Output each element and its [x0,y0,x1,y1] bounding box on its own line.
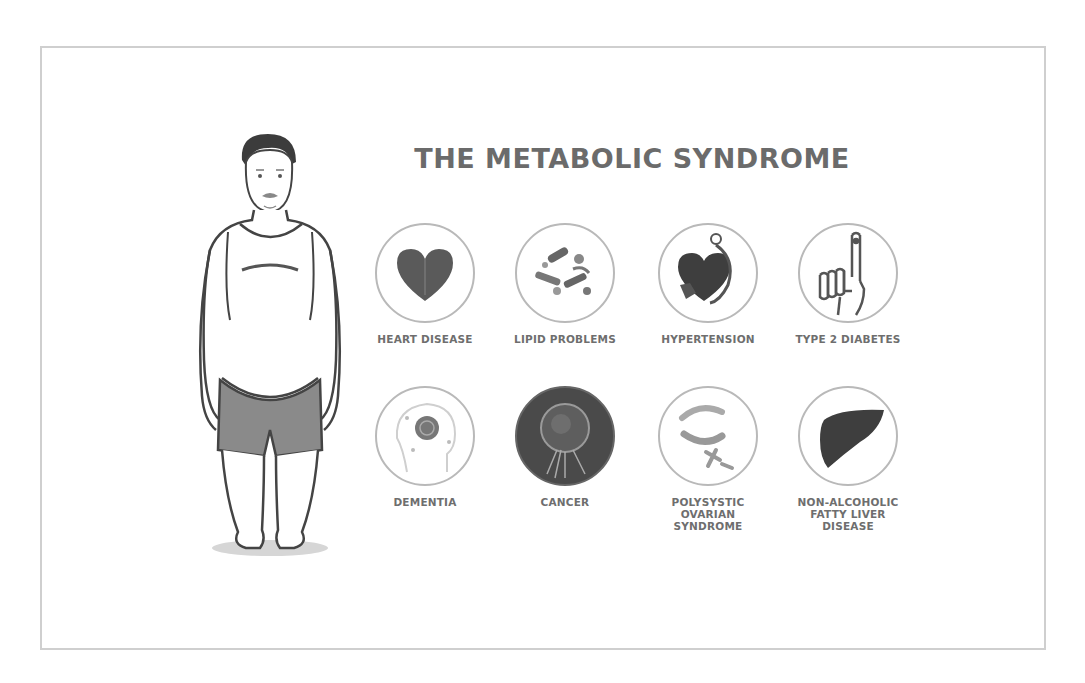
condition-label: NON-ALCOHOLIC FATTY LIVER DISEASE [778,496,918,532]
heart-icon [375,223,475,323]
condition-label: DEMENTIA [355,496,495,508]
condition-hypertension: HYPERTENSION [638,223,778,345]
overweight-man-figure [180,120,360,560]
condition-label: TYPE 2 DIABETES [778,333,918,345]
condition-fatty-liver-disease: NON-ALCOHOLIC FATTY LIVER DISEASE [778,386,918,532]
liver-icon [798,386,898,486]
condition-label: LIPID PROBLEMS [495,333,635,345]
condition-label: CANCER [495,496,635,508]
condition-type-2-diabetes: TYPE 2 DIABETES [778,223,918,345]
cancer-cell-icon [515,386,615,486]
condition-label: HYPERTENSION [638,333,778,345]
page-title: THE METABOLIC SYNDROME [402,143,862,174]
heart-stethoscope-icon [658,223,758,323]
condition-heart-disease: HEART DISEASE [355,223,495,345]
lipid-molecules-icon [515,223,615,323]
brain-head-icon [375,386,475,486]
condition-polycystic-ovarian-syndrome: POLYSYSTIC OVARIAN SYNDROME [638,386,778,532]
condition-cancer: CANCER [495,386,635,508]
condition-label: HEART DISEASE [355,333,495,345]
condition-dementia: DEMENTIA [355,386,495,508]
finger-prick-icon [798,223,898,323]
ovary-icon [658,386,758,486]
condition-lipid-problems: LIPID PROBLEMS [495,223,635,345]
condition-label: POLYSYSTIC OVARIAN SYNDROME [638,496,778,532]
